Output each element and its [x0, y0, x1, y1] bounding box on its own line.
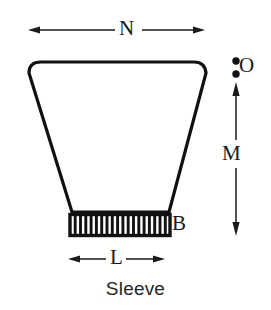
label-m: M [222, 143, 241, 164]
sleeve-body-outline [29, 62, 206, 212]
label-n: N [119, 18, 134, 39]
ribbed-band [70, 215, 170, 236]
dimension-arrow-n [28, 26, 205, 33]
label-b: B [172, 213, 186, 234]
label-o: O [239, 55, 254, 76]
sleeve-diagram: N M L B O Sleeve [0, 0, 271, 310]
label-l: L [110, 247, 123, 268]
diagram-caption: Sleeve [0, 278, 271, 300]
